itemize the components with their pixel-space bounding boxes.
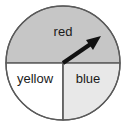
sector-label-red: red — [54, 24, 73, 39]
sector-label-yellow: yellow — [17, 71, 54, 86]
sector-label-blue: blue — [76, 71, 101, 86]
spinner-diagram: red yellow blue — [0, 0, 125, 133]
spinner-graphic: red yellow blue — [0, 0, 125, 133]
